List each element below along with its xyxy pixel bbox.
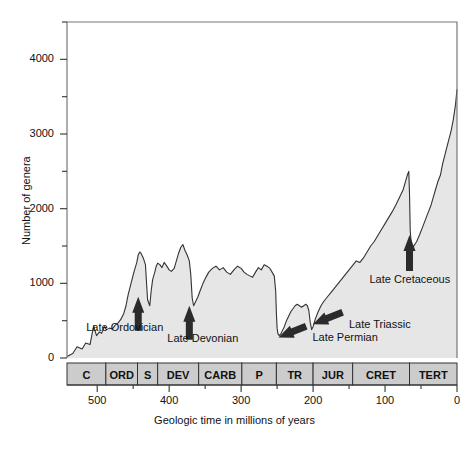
x-tick-label: 400	[144, 394, 194, 406]
y-tick-label: 0	[8, 351, 54, 363]
x-tick-label: 500	[72, 394, 122, 406]
x-axis-label: Geologic time in millions of years	[0, 414, 469, 426]
period-label: C	[67, 365, 106, 385]
period-label: CRET	[353, 365, 410, 385]
period-label: TERT	[410, 365, 457, 385]
period-label: S	[138, 365, 158, 385]
x-tick-label: 0	[432, 394, 469, 406]
x-tick-label: 100	[360, 394, 410, 406]
annotation-label: Late Permian	[312, 331, 377, 343]
y-tick-label: 4000	[8, 52, 54, 64]
period-label: TR	[276, 365, 313, 385]
annotation-label: Late Devonian	[167, 332, 238, 344]
period-label: DEV	[158, 365, 199, 385]
x-tick-label: 300	[216, 394, 266, 406]
annotation-label: Late Cretaceous	[370, 273, 451, 285]
y-tick-label: 3000	[8, 127, 54, 139]
y-tick-label: 1000	[8, 276, 54, 288]
diversity-chart: 01000200030004000CORDSDEVCARBPTRJURCRETT…	[0, 0, 469, 450]
period-label: JUR	[313, 365, 353, 385]
y-axis-label: Number of genera	[20, 156, 32, 245]
annotation-label: Late Ordovician	[86, 321, 163, 333]
annotation-label: Late Triassic	[349, 318, 411, 330]
period-label: P	[242, 365, 277, 385]
period-label: ORD	[106, 365, 138, 385]
period-label: CARB	[199, 365, 242, 385]
x-tick-label: 200	[288, 394, 338, 406]
